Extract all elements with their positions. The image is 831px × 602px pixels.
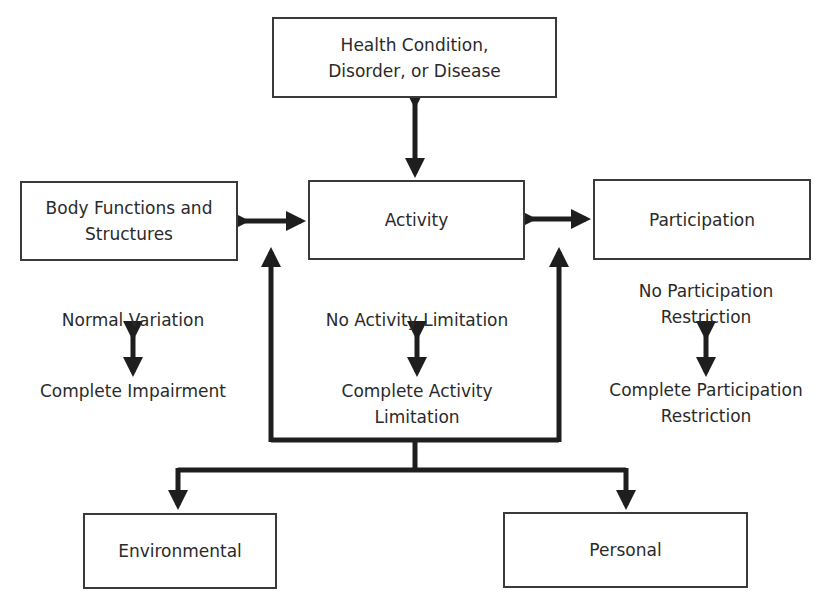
activity-box: Activity bbox=[308, 180, 525, 260]
health-condition-line1: Health Condition, bbox=[341, 32, 489, 58]
body-scale-bottom: Complete Impairment bbox=[13, 378, 253, 404]
participation-scale-bottom-line1: Complete Participation bbox=[586, 377, 826, 403]
environmental-box: Environmental bbox=[83, 513, 277, 589]
body-functions-line2: Structures bbox=[85, 221, 173, 247]
activity-scale-top: No Activity Limitation bbox=[297, 307, 537, 333]
activity-scale-bottom-line1: Complete Activity bbox=[297, 378, 537, 404]
participation-box: Participation bbox=[593, 179, 811, 260]
participation-scale-bottom-line2: Restriction bbox=[586, 403, 826, 429]
personal-label: Personal bbox=[589, 537, 661, 563]
health-condition-line2: Disorder, or Disease bbox=[328, 58, 500, 84]
activity-label: Activity bbox=[385, 207, 449, 233]
participation-label: Participation bbox=[649, 207, 755, 233]
personal-box: Personal bbox=[503, 512, 748, 588]
participation-scale-top-line1: No Participation bbox=[586, 278, 826, 304]
environmental-label: Environmental bbox=[118, 538, 242, 564]
participation-scale-top-line2: Restriction bbox=[586, 304, 826, 330]
body-functions-line1: Body Functions and bbox=[46, 195, 213, 221]
activity-scale-bottom-line2: Limitation bbox=[297, 404, 537, 430]
body-scale-top: Normal Variation bbox=[13, 307, 253, 333]
health-condition-box: Health Condition, Disorder, or Disease bbox=[272, 17, 557, 98]
body-functions-box: Body Functions and Structures bbox=[20, 181, 238, 261]
